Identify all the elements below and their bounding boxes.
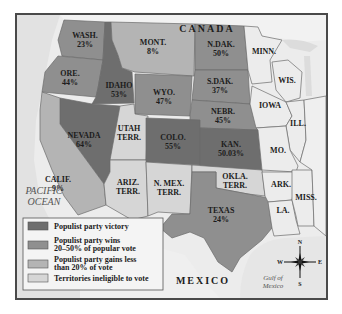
legend-swatch-less_than_20: [28, 260, 48, 268]
region-label-wyo-value: 47%: [156, 97, 172, 106]
legend-text-ineligible-line1: Territories ineligible to vote: [54, 274, 149, 283]
pacific-label-line2: OCEAN: [28, 196, 62, 207]
region-label-ariz-name: ARIZ.: [117, 178, 139, 187]
region-label-colo-value: 55%: [165, 142, 181, 151]
region-label-nebr-name: NEBR.: [211, 107, 235, 116]
region-label-wyo-name: WYO.: [153, 88, 175, 97]
region-label-kan-name: KAN.: [221, 140, 241, 149]
compass-e: E: [318, 259, 322, 265]
region-label-nebr-value: 45%: [215, 116, 231, 125]
legend: Populist party victoryPopulist party win…: [23, 218, 163, 290]
region-label-okla-name: OKLA.: [222, 172, 248, 181]
region-label-sdak-value: 37%: [212, 86, 228, 95]
populist-vote-map: WASH.23%ORE.44%IDAHO53%MONT.8%WYO.47%N.D…: [0, 0, 342, 314]
legend-swatch-wins_20_50: [28, 241, 48, 249]
region-label-idaho-name: IDAHO: [105, 81, 132, 90]
region-label-ark-name: ARK.: [271, 180, 291, 189]
gulf-label-line1: Gulf of: [263, 274, 284, 282]
region-label-miss-name: MISS.: [295, 193, 317, 202]
region-label-sdak-name: S.DAK.: [207, 77, 233, 86]
region-label-texas-name: TEXAS: [208, 206, 235, 215]
region-label-nevada-value: 64%: [76, 140, 92, 149]
compass-n: N: [298, 239, 303, 245]
legend-swatch-ineligible: [28, 274, 48, 282]
region-label-ill-name: ILL.: [290, 119, 306, 128]
region-label-utah-value: TERR.: [117, 133, 141, 142]
region-label-kan-value: 50.03%: [218, 149, 244, 158]
region-label-nmex-value: TERR.: [157, 188, 181, 197]
region-label-mo-name: MO.: [270, 146, 286, 155]
region-label-iowa-name: IOWA: [259, 101, 281, 110]
region-label-wash-name: WASH.: [72, 31, 98, 40]
region-label-la-name: LA.: [276, 206, 289, 215]
region-label-nevada-name: NEVADA: [67, 131, 100, 140]
region-label-ore-name: ORE.: [60, 69, 79, 78]
region-label-ndak-name: N.DAK.: [207, 40, 235, 49]
region-label-okla-value: TERR.: [223, 181, 247, 190]
region-label-ariz-value: TERR.: [116, 187, 140, 196]
legend-text-less_than_20-line2: than 20% of vote: [54, 263, 113, 272]
region-label-wis-name: WIS.: [278, 76, 296, 85]
gulf-label-line2: Mexico: [262, 282, 284, 290]
region-label-colo-name: COLO.: [160, 133, 186, 142]
legend-swatch-victory: [28, 222, 48, 230]
mexico-label: MEXICO: [176, 275, 230, 286]
region-label-mont-name: MONT.: [140, 38, 166, 47]
region-label-utah-name: UTAH: [118, 124, 141, 133]
region-label-mont-value: 8%: [147, 47, 159, 56]
region-label-minn-name: MINN.: [252, 47, 276, 56]
region-label-ndak-value: 50%: [213, 49, 229, 58]
region-label-wash-value: 23%: [77, 40, 93, 49]
legend-text-wins_20_50-line2: 20–50% of popular vote: [54, 244, 136, 253]
region-label-nmex-name: N. MEX.: [154, 179, 184, 188]
region-label-texas-value: 24%: [213, 215, 229, 224]
region-label-idaho-value: 53%: [111, 90, 127, 99]
canada-label: CANADA: [179, 23, 234, 34]
region-label-calif-name: CALIF.: [45, 175, 71, 184]
region-label-ore-value: 44%: [62, 78, 78, 87]
legend-text-victory-line1: Populist party victory: [54, 222, 129, 231]
pacific-label-line1: PACIFIC: [24, 185, 62, 196]
compass-w: W: [277, 259, 283, 265]
